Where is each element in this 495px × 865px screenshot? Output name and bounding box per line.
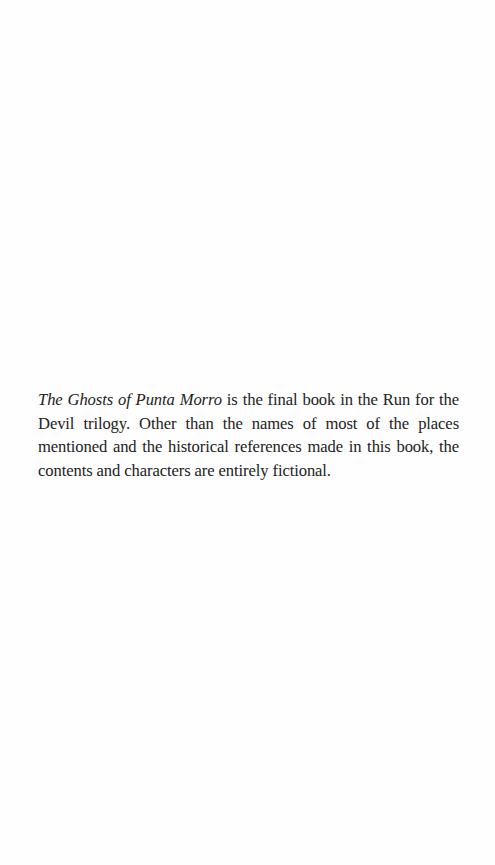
- book-title: The Ghosts of Punta Morro: [38, 390, 222, 409]
- book-page: The Ghosts of Punta Morro is the final b…: [0, 0, 495, 865]
- author-note-paragraph: The Ghosts of Punta Morro is the final b…: [38, 388, 459, 482]
